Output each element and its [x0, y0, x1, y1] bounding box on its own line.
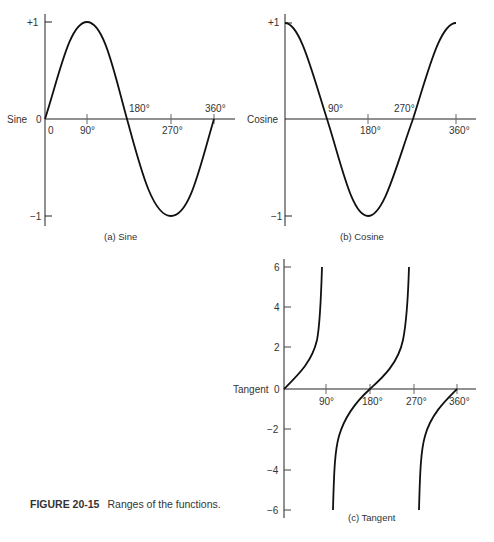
tangent-x-tick-180: 180°	[362, 396, 383, 407]
tangent-y-tick-neg6: −6	[267, 505, 279, 516]
tangent-x-tick-360: 360°	[449, 396, 470, 407]
sine-x-tick-0: 0	[48, 125, 54, 136]
sine-chart: Sine +1 0 −1 0 90° 180° 270° 360° (a) Si…	[7, 14, 235, 242]
tangent-caption: (c) Tangent	[348, 512, 396, 523]
tangent-x-tick-270: 270°	[406, 396, 427, 407]
sine-x-tick-360: 360°	[205, 103, 226, 114]
tangent-curve-branch-1	[284, 267, 322, 389]
cosine-x-tick-360: 360°	[449, 125, 470, 136]
cosine-y-tick-pos1: +1	[268, 17, 280, 28]
tangent-y-tick-4: 4	[274, 302, 280, 313]
sine-caption: (a) Sine	[104, 231, 137, 242]
cosine-chart: Cosine +1 −1 90° 180° 270° 360° (b) Cosi…	[247, 14, 476, 242]
tangent-curve-branch-3	[419, 389, 457, 510]
cosine-x-tick-270: 270°	[394, 103, 415, 114]
cosine-caption: (b) Cosine	[340, 231, 384, 242]
figure-caption-text: Ranges of the functions.	[107, 498, 220, 510]
cosine-x-tick-180: 180°	[360, 125, 381, 136]
sine-x-tick-90: 90°	[80, 125, 95, 136]
cosine-x-tick-90: 90°	[328, 103, 343, 114]
figure-caption: FIGURE 20-15Ranges of the functions.	[30, 498, 221, 510]
tangent-x-tick-90: 90°	[319, 396, 334, 407]
figure-number: FIGURE 20-15	[30, 498, 99, 510]
sine-x-tick-270: 270°	[162, 125, 183, 136]
tangent-chart: Tangent 6 4 2 0 −2 −4 −6 90° 180° 270° 3…	[233, 259, 476, 523]
tangent-y-tick-0: 0	[274, 384, 280, 395]
tangent-y-tick-neg4: −4	[267, 465, 279, 476]
tangent-y-tick-2: 2	[274, 342, 280, 353]
sine-y-tick-pos1: +1	[27, 17, 39, 28]
sine-y-tick-0: 0	[36, 114, 42, 125]
cosine-y-tick-neg1: −1	[271, 211, 283, 222]
sine-x-tick-180: 180°	[129, 103, 150, 114]
sine-y-tick-neg1: −1	[30, 211, 42, 222]
cosine-y-label: Cosine	[247, 114, 279, 125]
tangent-y-label: Tangent	[233, 384, 269, 395]
tangent-y-tick-neg2: −2	[267, 424, 279, 435]
tangent-y-tick-6: 6	[274, 262, 280, 273]
figure-canvas: Sine +1 0 −1 0 90° 180° 270° 360° (a) Si…	[0, 0, 494, 542]
sine-y-label: Sine	[7, 114, 27, 125]
